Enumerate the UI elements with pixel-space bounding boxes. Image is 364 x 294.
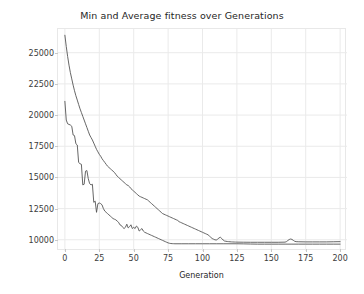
y-axis-tick-mark bbox=[55, 115, 58, 116]
y-axis-tick-label: 25000 bbox=[29, 48, 54, 57]
x-axis-tick-mark bbox=[134, 249, 135, 252]
series-lines bbox=[58, 29, 347, 251]
y-axis-tick-mark bbox=[55, 146, 58, 147]
x-axis-tick-label: 125 bbox=[229, 254, 244, 263]
y-axis-tick-label: 12500 bbox=[29, 204, 54, 213]
x-axis-tick-label: 175 bbox=[298, 254, 313, 263]
y-axis-tick-mark bbox=[55, 53, 58, 54]
x-axis-tick-mark bbox=[65, 249, 66, 252]
y-axis-tick-mark bbox=[55, 177, 58, 178]
x-axis-tick-mark bbox=[168, 249, 169, 252]
chart-figure: Min and Average fitness over Generations… bbox=[0, 0, 364, 294]
y-axis-tick-label: 15000 bbox=[29, 173, 54, 182]
y-axis-tick-mark bbox=[55, 209, 58, 210]
series-line-0 bbox=[65, 35, 340, 242]
y-axis-tick-mark bbox=[55, 240, 58, 241]
x-axis-tick-mark bbox=[99, 249, 100, 252]
x-axis-tick-mark bbox=[203, 249, 204, 252]
x-axis-tick-mark bbox=[237, 249, 238, 252]
y-axis-tick-label: 20000 bbox=[29, 111, 54, 120]
y-axis-tick-mark bbox=[55, 84, 58, 85]
x-axis-tick-label: 100 bbox=[195, 254, 210, 263]
y-axis-tick-label: 22500 bbox=[29, 79, 54, 88]
x-axis-tick-label: 0 bbox=[62, 254, 67, 263]
plot-area: 1000012500150001750020000225002500002550… bbox=[57, 28, 346, 250]
x-axis-tick-label: 200 bbox=[332, 254, 347, 263]
y-axis-tick-label: 10000 bbox=[29, 235, 54, 244]
x-axis-label: Generation bbox=[57, 271, 346, 280]
chart-title: Min and Average fitness over Generations bbox=[0, 10, 364, 21]
x-axis-tick-mark bbox=[306, 249, 307, 252]
x-axis-tick-label: 75 bbox=[163, 254, 173, 263]
y-axis-tick-label: 17500 bbox=[29, 142, 54, 151]
x-axis-tick-mark bbox=[340, 249, 341, 252]
x-axis-tick-label: 25 bbox=[94, 254, 104, 263]
x-axis-tick-mark bbox=[271, 249, 272, 252]
x-axis-tick-label: 150 bbox=[264, 254, 279, 263]
x-axis-tick-label: 50 bbox=[129, 254, 139, 263]
series-line-1 bbox=[65, 101, 340, 244]
